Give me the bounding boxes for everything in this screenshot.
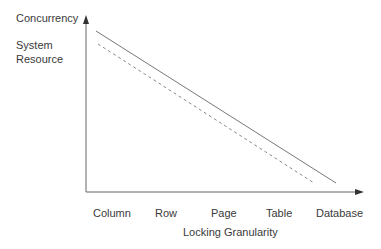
- x-tick-column: Column: [93, 207, 131, 220]
- x-axis-arrow-icon: [355, 189, 364, 195]
- x-tick-row: Row: [155, 207, 177, 220]
- x-tick-database: Database: [316, 207, 363, 220]
- y-label-resource: Resource: [16, 53, 63, 66]
- system-resource-line: [98, 44, 314, 183]
- y-label-system: System: [16, 39, 53, 52]
- x-tick-page: Page: [211, 207, 237, 220]
- y-label-concurrency: Concurrency: [16, 12, 78, 25]
- concurrency-line: [96, 31, 336, 183]
- x-axis-title: Locking Granularity: [183, 226, 278, 239]
- x-tick-table: Table: [266, 207, 292, 220]
- y-axis-arrow-icon: [83, 15, 89, 24]
